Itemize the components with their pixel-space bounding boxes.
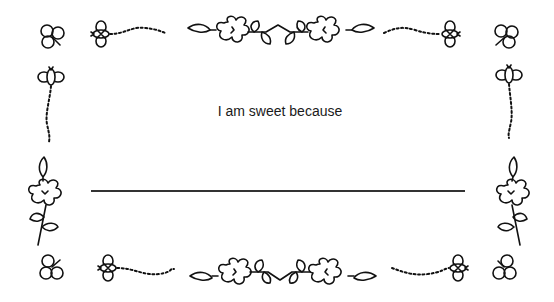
prompt-text: I am sweet because [180,103,380,119]
bee-icon [86,20,176,50]
flower-stem-left [28,155,68,250]
bee-icon [36,64,66,144]
flower-vine-top [186,12,376,52]
flower-stem-right [488,155,528,250]
bee-icon [380,20,470,50]
answer-line[interactable] [91,190,465,192]
bee-icon [94,254,184,284]
clover-icon [490,22,520,52]
clover-icon [38,254,68,284]
flower-vine-bottom [188,256,378,296]
clover-icon [490,254,520,284]
clover-icon [38,22,68,52]
bee-icon [494,62,524,142]
bee-icon [388,254,478,284]
